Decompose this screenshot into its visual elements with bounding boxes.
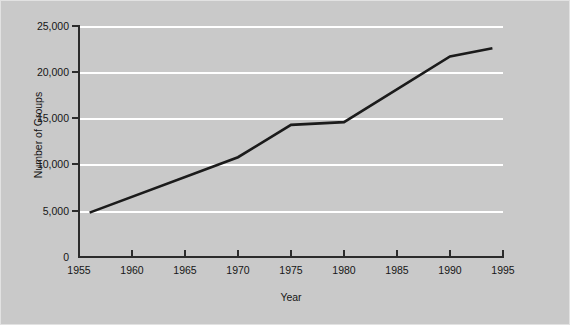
x-tick-label-1995: 1995 xyxy=(473,265,533,276)
x-tick-1975 xyxy=(290,250,292,257)
y-tick-label-5000: 5,000 xyxy=(1,206,69,217)
y-axis-title: Number of Groups xyxy=(32,65,44,205)
gridline-15000 xyxy=(79,118,503,120)
y-tick-25000 xyxy=(72,25,79,27)
gridline-10000 xyxy=(79,164,503,166)
y-tick-15000 xyxy=(72,117,79,119)
x-tick-label-1965: 1965 xyxy=(155,265,215,276)
gridline-5000 xyxy=(79,211,503,213)
y-tick-20000 xyxy=(72,71,79,73)
x-tick-1970 xyxy=(237,250,239,257)
x-axis-title: Year xyxy=(79,291,503,303)
chart-figure: 25,000 20,000 15,000 10,000 5,000 0 1955… xyxy=(0,0,570,325)
x-tick-label-1980: 1980 xyxy=(314,265,374,276)
plot-area xyxy=(79,26,503,257)
x-tick-label-1975: 1975 xyxy=(261,265,321,276)
gridline-20000 xyxy=(79,72,503,74)
gridline-25000 xyxy=(79,26,503,28)
y-tick-5000 xyxy=(72,210,79,212)
y-tick-label-0: 0 xyxy=(1,252,69,263)
x-tick-1985 xyxy=(396,250,398,257)
x-tick-1955 xyxy=(78,250,80,257)
x-tick-1995 xyxy=(502,250,504,257)
x-tick-1960 xyxy=(131,250,133,257)
y-axis-line xyxy=(78,25,80,258)
x-tick-1965 xyxy=(184,250,186,257)
y-tick-label-25000: 25,000 xyxy=(1,21,69,32)
x-tick-1980 xyxy=(343,250,345,257)
x-tick-label-1960: 1960 xyxy=(102,265,162,276)
x-tick-label-1955: 1955 xyxy=(49,265,109,276)
x-tick-1990 xyxy=(449,250,451,257)
x-tick-label-1970: 1970 xyxy=(208,265,268,276)
x-tick-label-1990: 1990 xyxy=(420,265,480,276)
y-tick-10000 xyxy=(72,163,79,165)
x-tick-label-1985: 1985 xyxy=(367,265,427,276)
